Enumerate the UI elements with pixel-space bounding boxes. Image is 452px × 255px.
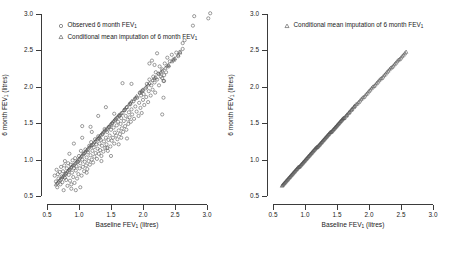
- x-tick: [111, 205, 112, 210]
- y-tick: [36, 50, 41, 51]
- x-tick-label: 2.0: [365, 212, 374, 218]
- x-tick: [369, 205, 370, 210]
- y-tick: [262, 50, 267, 51]
- x-axis-line-left: [47, 204, 207, 205]
- x-tick-label: 2.0: [139, 212, 148, 218]
- series-imputed: [280, 50, 408, 187]
- figure-root: 0.51.01.52.02.53.00.51.01.52.02.53.0 6 m…: [0, 0, 452, 255]
- y-tick: [262, 87, 267, 88]
- y-tick-label: 2.5: [24, 47, 36, 53]
- y-axis-line-right: [267, 14, 268, 196]
- y-tick: [262, 160, 267, 161]
- y-tick-label: 2.0: [250, 84, 262, 90]
- x-tick-label: 0.5: [269, 212, 278, 218]
- x-tick: [401, 205, 402, 210]
- y-tick-label: 3.0: [250, 11, 262, 17]
- x-tick-label: 1.0: [301, 212, 310, 218]
- y-tick: [36, 123, 41, 124]
- y-tick-label: 1.5: [24, 120, 36, 126]
- x-tick-label: 1.5: [333, 212, 342, 218]
- x-axis-title-left: Baseline FEV1 (litres): [47, 222, 207, 230]
- y-tick: [262, 196, 267, 197]
- y-tick-label: 0.5: [250, 193, 262, 199]
- plot-region-left: [47, 14, 207, 196]
- y-tick: [36, 14, 41, 15]
- y-tick: [36, 87, 41, 88]
- y-tick-label: 0.5: [24, 193, 36, 199]
- y-tick-label: 2.5: [250, 47, 262, 53]
- y-tick: [36, 160, 41, 161]
- y-tick: [262, 14, 267, 15]
- x-tick: [273, 205, 274, 210]
- x-tick-label: 1.5: [107, 212, 116, 218]
- y-axis-title-right: 6 month FEV1 (litres): [228, 74, 236, 135]
- x-tick-label: 1.0: [75, 212, 84, 218]
- imputation-scatter-panel-right: 0.51.01.52.02.53.00.51.01.52.02.53.0 6 m…: [226, 0, 452, 255]
- imputation-scatter-panel-left: 0.51.01.52.02.53.00.51.01.52.02.53.0 6 m…: [0, 0, 226, 255]
- x-tick: [207, 205, 208, 210]
- x-axis-line-right: [273, 204, 433, 205]
- x-tick: [175, 205, 176, 210]
- x-tick: [305, 205, 306, 210]
- y-tick-label: 3.0: [24, 11, 36, 17]
- x-tick: [79, 205, 80, 210]
- y-tick-label: 2.0: [24, 84, 36, 90]
- x-tick: [433, 205, 434, 210]
- data-points-left: [47, 14, 207, 196]
- y-tick: [262, 123, 267, 124]
- x-tick-label: 3.0: [203, 212, 212, 218]
- y-tick-label: 1.0: [250, 156, 262, 162]
- x-tick: [47, 205, 48, 210]
- x-tick: [337, 205, 338, 210]
- y-tick-label: 1.5: [250, 120, 262, 126]
- x-tick-label: 2.5: [397, 212, 406, 218]
- x-tick: [143, 205, 144, 210]
- y-axis-title-left: 6 month FEV1 (litres): [2, 74, 10, 135]
- x-tick-label: 0.5: [43, 212, 52, 218]
- plot-region-right: [273, 14, 433, 196]
- y-axis-line-left: [41, 14, 42, 196]
- x-axis-title-right: Baseline FEV1 (litres): [273, 222, 433, 230]
- y-tick: [36, 196, 41, 197]
- x-tick-label: 2.5: [171, 212, 180, 218]
- data-points-right: [273, 14, 433, 196]
- y-tick-label: 1.0: [24, 156, 36, 162]
- x-tick-label: 3.0: [429, 212, 438, 218]
